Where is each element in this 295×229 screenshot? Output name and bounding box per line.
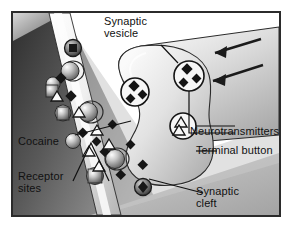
receptor-site-blocked (66, 134, 81, 149)
label-synaptic-cleft: Synaptic cleft (196, 186, 239, 209)
figure-root: Synaptic vesicle Neurotransmitters Termi… (0, 0, 295, 229)
vesicle-diamond-upper (174, 61, 204, 91)
label-neurotransmitters: Neurotransmitters (190, 126, 279, 138)
receptor-site-blocked (55, 105, 71, 121)
label-terminal-button: Terminal button (196, 145, 273, 157)
label-receptor-sites: Receptor sites (18, 171, 63, 194)
reuptake-pore (135, 179, 152, 196)
label-cocaine: Cocaine (18, 136, 59, 148)
label-synaptic-vesicle: Synaptic vesicle (104, 16, 147, 39)
reuptake-pore (65, 40, 82, 57)
vesicle-diamond-lower (121, 78, 149, 106)
